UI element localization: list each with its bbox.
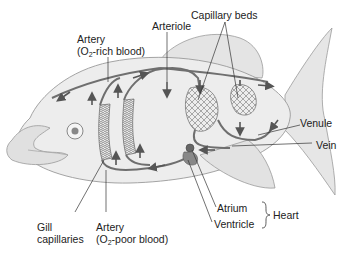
heart-brace: [262, 202, 270, 228]
label-heart: Heart: [273, 209, 299, 221]
atrium-graphic: [186, 144, 194, 152]
capillary-bed-1: [185, 87, 218, 131]
label-atrium: Atrium: [217, 202, 247, 214]
label-ventricle: Ventricle: [214, 218, 254, 230]
label-capillary-beds: Capillary beds: [191, 9, 258, 21]
label-venule: Venule: [300, 117, 332, 129]
label-artery-o2-rich: Artery (O2-rich blood): [77, 33, 145, 61]
label-vein: Vein: [316, 139, 336, 151]
tail-fin: [285, 28, 335, 195]
label-artery-o2-poor: Artery (O2-poor blood): [96, 221, 168, 249]
label-gill-capillaries: Gill capillaries: [37, 221, 84, 245]
label-arteriole: Arteriole: [152, 20, 191, 32]
